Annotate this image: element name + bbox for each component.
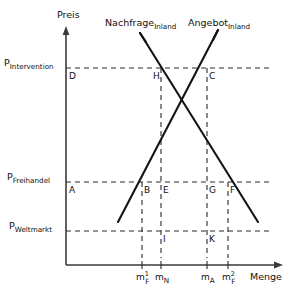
- svg-text:PFreihandel: PFreihandel: [7, 171, 50, 185]
- price-label-freihandel: PFreihandel: [7, 171, 50, 185]
- price-guide-lines: [66, 68, 270, 231]
- weltmarkt-sub: Weltmarkt: [15, 225, 52, 234]
- svg-text:PIntervention: PIntervention: [4, 57, 54, 71]
- demand-label-base: Nachfrage: [105, 17, 154, 28]
- mA-sub: A: [210, 276, 215, 285]
- mF1-sub: F: [145, 277, 149, 286]
- point-label-B: B: [144, 185, 150, 195]
- mA-base: m: [201, 272, 210, 282]
- point-label-I: I: [163, 234, 166, 244]
- mN-base: m: [155, 272, 164, 282]
- demand-curve: [140, 33, 258, 222]
- point-label-F: F: [230, 185, 235, 195]
- supply-label-base: Angebot: [188, 17, 228, 28]
- mF2-base: m: [222, 272, 231, 282]
- quantity-label-mN: mN: [155, 272, 169, 285]
- y-axis-arrowhead: [63, 26, 70, 35]
- mF1-base: m: [136, 272, 145, 282]
- supply-label-sub: Inland: [228, 22, 250, 31]
- svg-text:mA: mA: [201, 272, 215, 285]
- quantity-label-mA: mA: [201, 272, 215, 285]
- supply-label-leader: [213, 30, 218, 40]
- supply-demand-diagram: Preis Menge NachfrageInland AngebotInlan…: [0, 0, 292, 288]
- freihandel-sub: Freihandel: [13, 176, 50, 185]
- point-label-C: C: [209, 71, 215, 81]
- curves-group: [118, 30, 258, 222]
- y-axis-title: Preis: [57, 9, 80, 20]
- svg-text:PWeltmarkt: PWeltmarkt: [9, 220, 52, 234]
- quantity-label-mF2: m2F: [222, 270, 235, 286]
- x-axis-arrowhead: [274, 262, 283, 269]
- mN-sub: N: [164, 276, 169, 285]
- point-label-H: H: [153, 71, 160, 81]
- svg-text:NachfrageInland: NachfrageInland: [105, 17, 176, 31]
- price-label-intervention: PIntervention: [4, 57, 54, 71]
- svg-text:m2F: m2F: [222, 270, 235, 286]
- point-label-E: E: [163, 185, 169, 195]
- svg-text:AngebotInland: AngebotInland: [188, 17, 250, 31]
- svg-text:m1F: m1F: [136, 270, 149, 286]
- intervention-sub: Intervention: [10, 62, 54, 71]
- demand-label-sub: Inland: [154, 22, 176, 31]
- supply-curve-label: AngebotInland: [188, 17, 250, 31]
- point-label-A: A: [69, 185, 76, 195]
- mF2-sub: F: [231, 277, 235, 286]
- diagram-canvas: Preis Menge NachfrageInland AngebotInlan…: [0, 0, 292, 288]
- axes-group: [63, 26, 283, 268]
- svg-text:mN: mN: [155, 272, 169, 285]
- price-label-weltmarkt: PWeltmarkt: [9, 220, 52, 234]
- demand-curve-label: NachfrageInland: [105, 17, 176, 31]
- point-label-K: K: [209, 234, 216, 244]
- demand-label-leader: [140, 33, 146, 42]
- quantity-label-mF1: m1F: [136, 270, 149, 286]
- quantity-guide-lines: [142, 68, 228, 258]
- x-axis-title: Menge: [250, 271, 282, 282]
- point-label-D: D: [69, 71, 76, 81]
- curve-label-leaders: [140, 30, 218, 42]
- point-label-G: G: [209, 185, 216, 195]
